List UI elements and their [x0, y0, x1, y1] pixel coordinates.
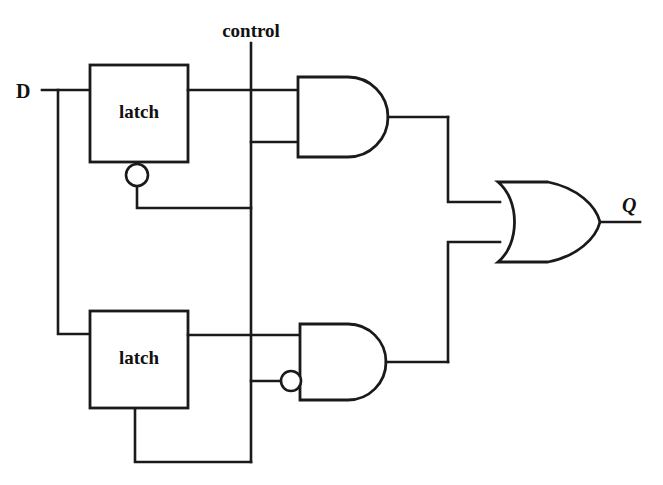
circuit-schematic-canvas: latch latch [0, 0, 663, 485]
wire-d-to-bottom-latch [58, 90, 90, 334]
wire-control-to-latch-top-enable [137, 188, 251, 208]
or-gate-body[interactable] [498, 182, 600, 262]
latch-top-enable-inversion-bubble [126, 164, 148, 186]
and-gate-bottom-input-inversion-bubble [281, 371, 301, 391]
latch-bottom-label: latch [119, 347, 160, 368]
wire-and-top-to-or-in1 [448, 117, 500, 202]
or-gate[interactable] [498, 182, 640, 262]
and-gate-bottom[interactable] [281, 324, 448, 400]
wire-and-bottom-to-or-in2 [448, 242, 500, 362]
wire-control-to-latch-bottom-enable [135, 408, 251, 462]
label-input-d: D [16, 80, 30, 102]
circuit-diagram: latch latch [0, 0, 663, 485]
latch-top-label: latch [119, 101, 160, 122]
and-gate-bottom-body[interactable] [300, 324, 386, 400]
net-d-input [42, 90, 90, 334]
and-gate-top-body[interactable] [298, 77, 388, 157]
latch-top[interactable]: latch [90, 65, 188, 186]
and-gate-top[interactable] [298, 77, 448, 157]
label-output-q: Q [622, 194, 636, 216]
latch-bottom[interactable]: latch [90, 311, 188, 408]
label-input-control: control [222, 20, 280, 41]
